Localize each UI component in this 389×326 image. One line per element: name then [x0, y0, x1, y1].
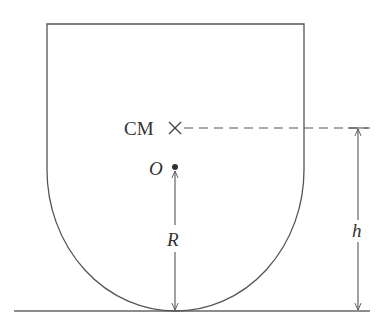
cm-label: CM [124, 118, 154, 139]
height-label: h [352, 220, 362, 241]
origin-point [172, 164, 178, 170]
rocking-body-diagram: CM O R h [0, 0, 389, 326]
center-of-mass-marker [169, 122, 181, 134]
radius-label: R [166, 229, 179, 250]
origin-label: O [149, 158, 163, 179]
